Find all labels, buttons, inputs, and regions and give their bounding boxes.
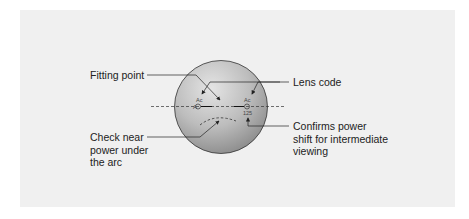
fitting-point-label: Fitting point <box>90 69 144 82</box>
left-ac-mark: Ac <box>196 97 203 103</box>
check-near-line-3: the arc <box>90 156 148 169</box>
confirms-line-2: shift for intermediate <box>293 133 388 146</box>
check-near-line-1: Check near <box>90 131 148 144</box>
confirms-line-1: Confirms power <box>293 120 388 133</box>
right-ac-mark: Ac <box>244 97 251 103</box>
confirms-label: Confirms power shift for intermediate vi… <box>293 120 388 158</box>
lens-diagram: A Ac Ac 125 <box>0 0 469 219</box>
left-a-mark: A <box>193 104 197 110</box>
confirms-line-3: viewing <box>293 145 388 158</box>
right-number-mark: 125 <box>243 110 252 116</box>
check-near-label: Check near power under the arc <box>90 131 148 169</box>
lens-circle <box>175 61 268 154</box>
check-near-line-2: power under <box>90 144 148 157</box>
lens-code-label: Lens code <box>293 76 341 89</box>
